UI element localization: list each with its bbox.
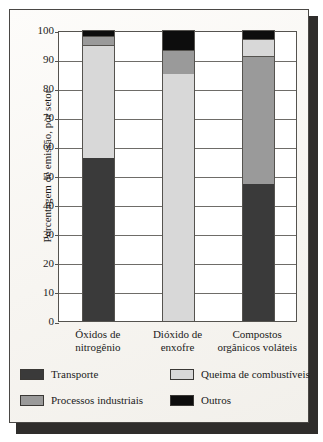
figure-root: Porcentagem de emissão, por setor 010203…: [0, 0, 323, 442]
y-tick-mark-80: [55, 90, 59, 91]
bar-1[interactable]: [82, 30, 115, 321]
y-tick-mark-60: [55, 148, 59, 149]
x-axis-label-1: Óxidos denitrogênio: [58, 328, 138, 353]
y-tick-mark-100: [55, 32, 59, 33]
x-label-line: nitrogênio: [58, 341, 138, 354]
y-tick-mark-90: [55, 61, 59, 62]
bar-segment[interactable]: [83, 36, 114, 45]
legend-item[interactable]: Transporte: [20, 368, 98, 380]
legend-item[interactable]: Outros: [170, 394, 231, 406]
legend-swatch-icon: [20, 395, 44, 406]
x-label-line: Compostos: [217, 328, 297, 341]
y-tick-label-80: 80: [43, 83, 54, 94]
legend-label: Transporte: [51, 368, 98, 380]
bar-segment[interactable]: [243, 56, 274, 184]
y-tick-mark-50: [55, 177, 59, 178]
x-label-line: Óxidos de: [58, 328, 138, 341]
legend-label: Queima de combustíveis: [201, 368, 310, 380]
y-tick-label-50: 50: [43, 171, 54, 182]
y-tick-label-30: 30: [43, 229, 54, 240]
y-tick-label-70: 70: [43, 112, 54, 123]
chart-legend: TransporteQueima de combustíveisProcesso…: [20, 368, 298, 416]
bar-segment[interactable]: [163, 50, 194, 73]
bar-top-edge: [163, 30, 194, 31]
bar-top-edge: [243, 30, 274, 31]
bar-segment[interactable]: [163, 30, 194, 50]
x-label-line: Dióxido de: [138, 328, 218, 341]
legend-item[interactable]: Processos industriais: [20, 394, 143, 406]
y-tick-label-10: 10: [43, 287, 54, 298]
bar-segment[interactable]: [163, 74, 194, 321]
y-tick-label-100: 100: [38, 25, 55, 36]
legend-swatch-icon: [170, 369, 194, 380]
y-tick-label-40: 40: [43, 200, 54, 211]
y-tick-mark-30: [55, 235, 59, 236]
bar-segment[interactable]: [83, 45, 114, 158]
legend-label: Outros: [201, 394, 231, 406]
x-label-line: orgânicos voláteis: [217, 341, 297, 354]
legend-label: Processos industriais: [51, 394, 143, 406]
y-tick-mark-70: [55, 119, 59, 120]
y-tick-label-90: 90: [43, 54, 54, 65]
plot-area: [58, 31, 297, 322]
x-axis-label-3: Compostosorgânicos voláteis: [217, 328, 297, 353]
y-tick-label-60: 60: [43, 141, 54, 152]
x-label-line: enxofre: [138, 341, 218, 354]
y-tick-mark-0: [55, 323, 59, 324]
bar-top-edge: [83, 30, 114, 31]
x-axis-label-2: Dióxido deenxofre: [138, 328, 218, 353]
y-tick-label-0: 0: [49, 316, 55, 327]
y-tick-mark-40: [55, 206, 59, 207]
legend-swatch-icon: [20, 369, 44, 380]
bar-segment[interactable]: [243, 30, 274, 39]
bar-2[interactable]: [162, 30, 195, 321]
bar-segment[interactable]: [243, 39, 274, 56]
y-tick-mark-20: [55, 264, 59, 265]
y-tick-label-20: 20: [43, 258, 54, 269]
y-tick-mark-10: [55, 293, 59, 294]
legend-item[interactable]: Queima de combustíveis: [170, 368, 310, 380]
bar-segment[interactable]: [243, 184, 274, 321]
legend-swatch-icon: [170, 395, 194, 406]
bar-3[interactable]: [242, 30, 275, 321]
bar-segment[interactable]: [83, 158, 114, 321]
